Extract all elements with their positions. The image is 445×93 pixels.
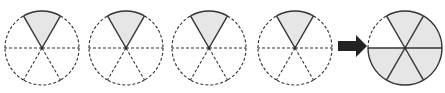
fraction-diagram <box>0 0 445 93</box>
sector-arc <box>24 80 61 85</box>
fraction-circle-1 <box>5 11 79 85</box>
right-arrow-icon <box>338 35 367 57</box>
sector-divider <box>108 48 127 80</box>
center-dot <box>207 46 210 49</box>
sector-divider <box>191 48 210 80</box>
center-dot <box>124 46 127 49</box>
shaded-sector <box>277 11 314 48</box>
sector-arc <box>228 16 247 48</box>
sector-arc <box>89 16 108 48</box>
sector-arc <box>145 16 164 48</box>
fraction-circle-4 <box>258 11 332 85</box>
diagram-canvas <box>0 0 445 93</box>
sector-arc <box>61 16 80 48</box>
sector-arc <box>228 48 247 80</box>
sector-arc <box>314 48 333 80</box>
fraction-circle-2 <box>89 11 163 85</box>
shaded-sector <box>24 11 61 48</box>
sector-divider <box>277 48 296 80</box>
fraction-circle-3 <box>172 11 246 85</box>
sector-arc <box>145 48 164 80</box>
shaded-sector <box>191 11 228 48</box>
center-dot <box>293 46 296 49</box>
sector-arc <box>61 48 80 80</box>
sector-arc <box>172 48 191 80</box>
sector-arc <box>5 48 24 80</box>
center-dot <box>403 46 406 49</box>
result-circle <box>368 11 442 85</box>
sector-arc <box>191 80 228 85</box>
sector-divider <box>24 48 43 80</box>
sector-arc <box>277 80 314 85</box>
sector-divider <box>126 48 145 80</box>
sector-arc <box>172 16 191 48</box>
sector-arc <box>108 80 145 85</box>
sector-arc <box>5 16 24 48</box>
sector-divider <box>295 48 314 80</box>
sector-arc <box>368 16 387 48</box>
center-dot <box>40 46 43 49</box>
sector-divider <box>209 48 228 80</box>
sector-arc <box>89 48 108 80</box>
sector-arc <box>314 16 333 48</box>
sector-arc <box>258 48 277 80</box>
shaded-sector <box>108 11 145 48</box>
sector-arc <box>258 16 277 48</box>
sector-divider <box>42 48 61 80</box>
